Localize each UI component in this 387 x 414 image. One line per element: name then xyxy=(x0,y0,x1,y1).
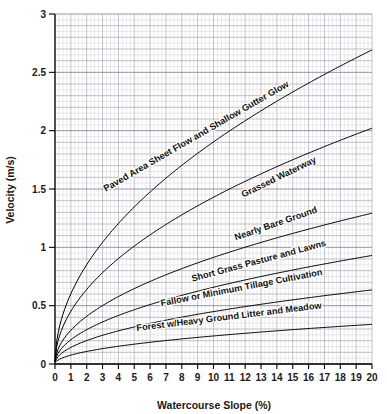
chart-canvas: 01234567891011121314151617181920 00.511.… xyxy=(0,0,387,414)
y-tick-label: 2 xyxy=(40,125,46,136)
x-tick-label: 3 xyxy=(100,372,106,383)
x-axis-tick-labels: 01234567891011121314151617181920 xyxy=(52,372,378,383)
x-tick-label: 11 xyxy=(224,372,235,383)
x-tick-label: 12 xyxy=(240,372,252,383)
x-tick-label: 10 xyxy=(208,372,220,383)
x-tick-label: 15 xyxy=(287,372,299,383)
x-tick-label: 17 xyxy=(319,372,331,383)
y-tick-label: 1 xyxy=(40,242,46,253)
y-axis-title: Velocity (m/s) xyxy=(4,156,16,224)
x-tick-label: 1 xyxy=(68,372,74,383)
x-tick-label: 5 xyxy=(131,372,137,383)
x-tick-label: 4 xyxy=(116,372,122,383)
x-tick-label: 16 xyxy=(303,372,315,383)
x-tick-label: 8 xyxy=(179,372,185,383)
velocity-slope-chart: 01234567891011121314151617181920 00.511.… xyxy=(0,0,387,414)
x-tick-label: 13 xyxy=(255,372,267,383)
x-tick-label: 7 xyxy=(163,372,169,383)
y-tick-label: 0 xyxy=(40,359,46,370)
x-tick-label: 9 xyxy=(195,372,201,383)
x-tick-label: 2 xyxy=(84,372,90,383)
y-tick-label: 1.5 xyxy=(32,184,46,195)
x-tick-label: 19 xyxy=(351,372,363,383)
y-tick-label: 0.5 xyxy=(32,300,46,311)
x-tick-label: 18 xyxy=(335,372,347,383)
x-axis-title: Watercourse Slope (%) xyxy=(157,399,271,411)
y-tick-label: 3 xyxy=(40,9,46,20)
x-tick-label: 6 xyxy=(147,372,153,383)
x-tick-label: 14 xyxy=(271,372,283,383)
x-tick-label: 0 xyxy=(52,372,58,383)
y-tick-label: 2.5 xyxy=(32,67,46,78)
x-tick-label: 20 xyxy=(366,372,378,383)
